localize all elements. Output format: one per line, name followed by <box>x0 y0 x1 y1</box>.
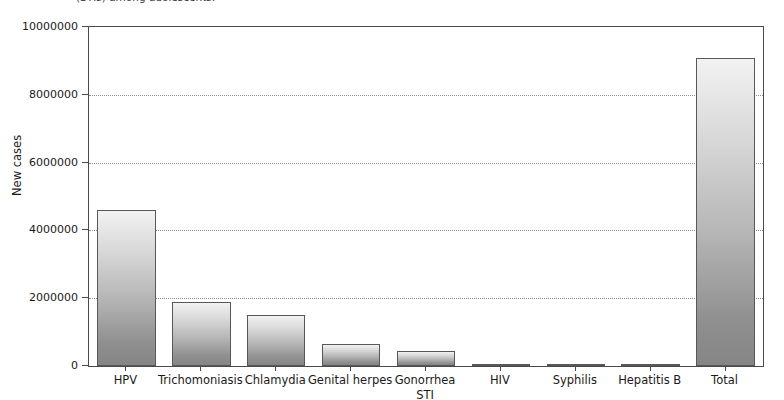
x-tick-label: HIV <box>490 373 510 387</box>
x-tick-label: Chlamydia <box>245 373 306 387</box>
bar <box>172 302 230 366</box>
y-tick-label: 10000000 <box>22 20 78 33</box>
x-tick-mark <box>125 366 126 371</box>
x-tick-mark <box>275 366 276 371</box>
figure-caption-clipped: (STIs) among adolescents. <box>76 0 576 5</box>
x-tick-mark <box>650 366 651 371</box>
x-tick-label: Syphilis <box>553 373 597 387</box>
x-tick-label: Hepatitis B <box>618 373 681 387</box>
bar <box>247 315 305 366</box>
gridline <box>89 298 763 299</box>
x-tick-label: Gonorrhea <box>395 373 456 387</box>
x-tick-label: Genital herpes <box>308 373 392 387</box>
x-axis-label: STI <box>416 388 434 400</box>
plot-area <box>88 26 764 367</box>
gridline <box>89 163 763 164</box>
bar <box>97 210 155 366</box>
gridline <box>89 230 763 231</box>
x-tick-mark <box>350 366 351 371</box>
y-axis-label: New cases <box>10 135 24 196</box>
figure-caption-text: (STIs) among adolescents. <box>76 0 576 4</box>
x-tick-label: HPV <box>114 373 137 387</box>
y-tick-label: 4000000 <box>29 223 78 236</box>
x-tick-mark <box>725 366 726 371</box>
y-tick-label: 2000000 <box>29 291 78 304</box>
x-tick-label: Trichomoniasis <box>158 373 243 387</box>
x-axis: HPVTrichomoniasisChlamydiaGenital herpes… <box>88 366 762 400</box>
bar <box>322 344 380 366</box>
bar <box>696 58 754 366</box>
x-tick-mark <box>200 366 201 371</box>
gridline <box>89 95 763 96</box>
y-tick-label: 0 <box>71 359 78 372</box>
x-tick-mark <box>575 366 576 371</box>
y-tick-label: 6000000 <box>29 155 78 168</box>
x-tick-mark <box>500 366 501 371</box>
x-tick-label: Total <box>711 373 738 387</box>
y-tick-label: 8000000 <box>29 87 78 100</box>
bar <box>397 351 455 366</box>
x-tick-mark <box>425 366 426 371</box>
bar-chart-figure: (STIs) among adolescents. New cases 0200… <box>0 0 784 400</box>
